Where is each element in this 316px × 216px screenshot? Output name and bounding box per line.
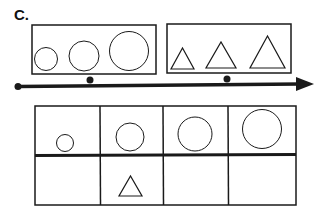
table-triangle-icon bbox=[119, 176, 142, 196]
triangle-medium-icon bbox=[206, 42, 236, 68]
table-circle-xsmall-icon bbox=[57, 135, 74, 152]
circle-medium-icon bbox=[69, 41, 99, 71]
comparison-table bbox=[35, 106, 296, 205]
table-circle-medium-icon bbox=[178, 117, 212, 151]
triangle-group-box bbox=[167, 24, 291, 73]
timeline-arrow bbox=[15, 76, 315, 92]
table-circle-large-icon bbox=[243, 110, 282, 149]
timeline-marker-2 bbox=[224, 76, 231, 83]
triangle-small-icon bbox=[171, 48, 194, 69]
diagram bbox=[0, 0, 316, 216]
circle-small-icon bbox=[35, 48, 58, 71]
timeline-start-dot bbox=[15, 83, 22, 90]
timeline-marker-1 bbox=[87, 77, 94, 84]
table-circle-small-icon bbox=[116, 123, 144, 151]
circle-large-icon bbox=[110, 32, 149, 71]
triangle-large-icon bbox=[250, 36, 285, 68]
